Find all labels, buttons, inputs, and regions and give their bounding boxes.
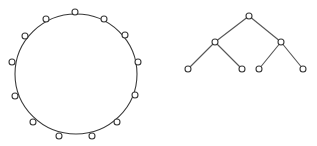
tree-node-right [278,39,284,45]
ring-node [12,93,18,99]
diagram-canvas [0,0,317,146]
ring-node [72,9,78,15]
tree-edge [188,42,215,69]
tree-node-left-left [185,66,191,72]
ring-node [114,119,120,125]
tree-node-left [212,39,218,45]
ring-node [56,133,62,139]
ring-node [30,119,36,125]
tree-node-left-right [239,66,245,72]
ring-node [135,59,141,65]
tree-edge [281,42,303,69]
tree-edges [188,16,303,69]
ring-node [43,16,49,22]
binary-tree [185,13,306,72]
ring-node [122,32,128,38]
tree-node-right-left [256,66,262,72]
tree-edge [259,42,281,69]
tree-edge [215,16,249,42]
ring-node [101,16,107,22]
tree-node-root [246,13,252,19]
ring-graph [9,9,141,139]
ring-nodes [9,9,141,139]
tree-nodes [185,13,306,72]
tree-node-right-right [300,66,306,72]
ring-node [89,133,95,139]
ring-node [132,92,138,98]
ring-node [22,33,28,39]
ring-circle [15,14,137,134]
tree-edge [249,16,281,42]
tree-edge [215,42,242,69]
ring-node [9,59,15,65]
